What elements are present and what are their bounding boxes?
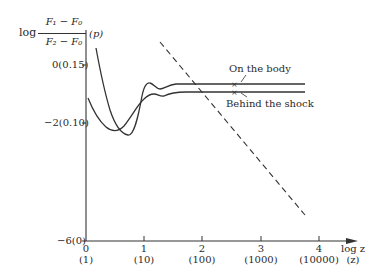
x-tick-label: 3(1000) (236, 243, 286, 265)
y-label-suffix: (p) (89, 29, 103, 39)
x-axis-label: log z(z) (333, 243, 373, 265)
x-tick-label: 0(1) (61, 243, 111, 265)
leader-behind-the-shock (241, 93, 247, 97)
annotation-behind-the-shock: Behind the shock (226, 99, 314, 109)
y-tick-label: 0(0.15) (52, 60, 88, 70)
marker-behind-the-shock: × (231, 88, 238, 97)
y-label-prefix: log (19, 28, 36, 38)
y-label-numerator: F₁ − F₀ (40, 16, 88, 27)
leader-on-the-body (241, 75, 246, 82)
x-tick-label: 1(10) (119, 243, 169, 265)
x-tick-label: 2(100) (177, 243, 227, 265)
y-tick-label: −2(0.10) (44, 118, 89, 128)
y-label-fraction-bar (38, 33, 86, 34)
y-label-denominator: F₂ − F₀ (40, 36, 88, 47)
annotation-on-the-body: On the body (229, 64, 291, 74)
